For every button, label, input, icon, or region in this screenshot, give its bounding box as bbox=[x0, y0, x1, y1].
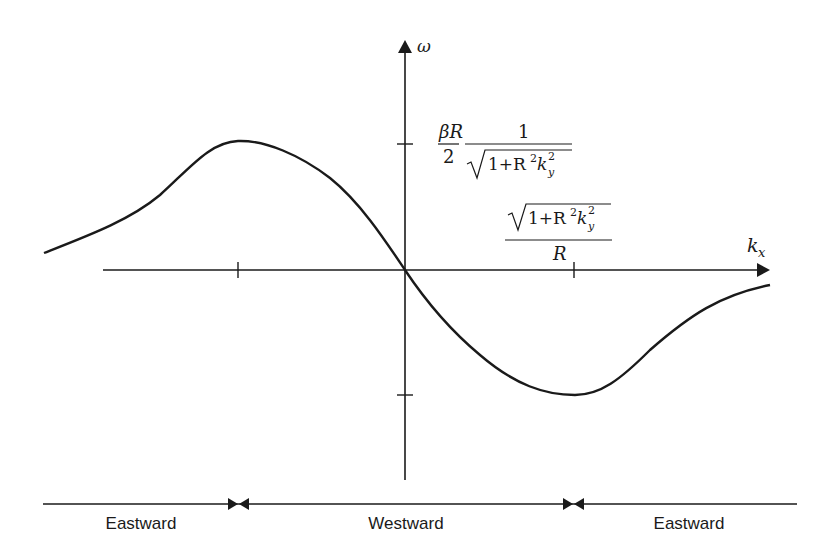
region-boundary-arrow-icon bbox=[228, 498, 238, 510]
svg-text:y: y bbox=[547, 166, 555, 179]
svg-text:k: k bbox=[537, 154, 547, 174]
svg-text:2: 2 bbox=[570, 206, 577, 219]
svg-text:R: R bbox=[552, 243, 567, 264]
dispersion-curve bbox=[44, 141, 770, 395]
x-axis-arrow-icon bbox=[757, 263, 770, 277]
svg-text:x: x bbox=[758, 245, 766, 260]
wavenumber-annotation: 1+R 2 k 2 y R bbox=[505, 204, 612, 264]
svg-text:k: k bbox=[747, 234, 759, 256]
y-axis-label: ω bbox=[417, 36, 431, 56]
svg-text:1: 1 bbox=[518, 121, 529, 142]
dispersion-diagram: ω k x βR 2 1 1+R 2 k 2 y 1+R 2 k 2 y R E… bbox=[0, 0, 819, 555]
region-boundary-arrow-icon bbox=[563, 498, 573, 510]
max-frequency-annotation: βR 2 1 1+R 2 k 2 y bbox=[438, 121, 572, 179]
x-axis-label: k x bbox=[747, 234, 766, 260]
svg-text:2: 2 bbox=[548, 150, 555, 163]
region-boundary-arrow-icon bbox=[239, 498, 249, 510]
svg-text:1+R: 1+R bbox=[528, 208, 567, 228]
region-label-westward: Westward bbox=[368, 514, 443, 533]
y-axis-arrow-icon bbox=[398, 40, 412, 53]
region-bar bbox=[43, 498, 797, 510]
region-boundary-arrow-icon bbox=[574, 498, 584, 510]
svg-text:2: 2 bbox=[443, 146, 454, 167]
svg-text:2: 2 bbox=[530, 152, 537, 165]
svg-text:1+R: 1+R bbox=[488, 154, 527, 174]
svg-text:k: k bbox=[577, 208, 587, 228]
svg-text:2: 2 bbox=[588, 204, 595, 217]
region-label-eastward-right: Eastward bbox=[654, 514, 725, 533]
svg-text:y: y bbox=[587, 220, 595, 233]
region-label-eastward-left: Eastward bbox=[106, 514, 177, 533]
svg-text:βR: βR bbox=[438, 121, 463, 142]
x-axis bbox=[103, 262, 770, 278]
